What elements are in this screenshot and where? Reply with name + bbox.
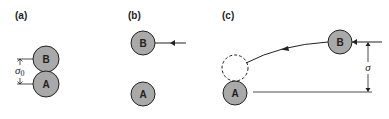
panel-b-label: (b) <box>128 10 141 21</box>
arrow-left-icon <box>281 46 289 51</box>
ball-a: A <box>223 81 247 105</box>
panel-a-label: (a) <box>15 10 27 21</box>
panel-a: (a) B A σ0 <box>15 10 59 97</box>
ball-a: A <box>131 82 155 106</box>
collision-diagram: (a) B A σ0 (b) B <box>0 0 389 119</box>
svg-text:A: A <box>139 89 146 100</box>
deflected-trajectory <box>246 42 328 63</box>
arrow-left-icon <box>170 40 175 46</box>
ball-b: B <box>131 31 155 55</box>
sigma-label: σ <box>365 61 371 73</box>
svg-text:B: B <box>42 54 49 65</box>
sigma0-dimension: σ0 <box>15 59 33 84</box>
sigma0-label: σ0 <box>15 64 24 78</box>
svg-text:A: A <box>42 79 49 90</box>
panel-b: (b) B A <box>128 10 186 106</box>
ball-b: B <box>33 46 59 72</box>
svg-text:A: A <box>231 88 238 99</box>
svg-text:B: B <box>336 37 343 48</box>
ball-b: B <box>328 30 352 54</box>
panel-c: (c) B A σ <box>222 10 382 105</box>
ghost-ball-position <box>222 55 248 81</box>
svg-text:B: B <box>139 38 146 49</box>
panel-c-label: (c) <box>222 10 234 21</box>
ball-a: A <box>33 71 59 97</box>
incoming-trajectory <box>155 40 186 46</box>
sigma-dimension: σ <box>363 42 373 92</box>
arrow-left-icon <box>352 39 357 45</box>
